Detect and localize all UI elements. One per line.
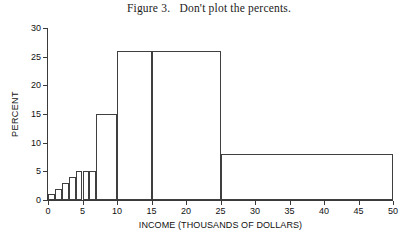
y-tick-label: 30 bbox=[31, 24, 41, 33]
x-tick-label: 15 bbox=[146, 207, 156, 216]
y-tick-mark bbox=[43, 200, 47, 201]
y-axis-title-label: PERCENT bbox=[10, 91, 20, 137]
x-tick-label: 30 bbox=[250, 207, 260, 216]
x-tick-label: 25 bbox=[215, 207, 225, 216]
y-tick-label: 0 bbox=[36, 196, 41, 205]
x-tick-mark bbox=[393, 201, 394, 205]
histogram-bar bbox=[117, 51, 152, 200]
y-axis-title: PERCENT bbox=[8, 28, 22, 200]
y-tick-mark bbox=[43, 143, 47, 144]
x-tick-label: 35 bbox=[284, 207, 294, 216]
x-tick-mark bbox=[117, 201, 118, 205]
x-tick-label: 0 bbox=[45, 207, 50, 216]
figure-title: Figure 3. Don't plot the percents. bbox=[0, 2, 418, 14]
x-tick-label: 10 bbox=[112, 207, 122, 216]
y-tick-mark bbox=[43, 85, 47, 86]
y-axis-line bbox=[47, 28, 48, 200]
x-tick-label: 50 bbox=[388, 207, 398, 216]
y-tick-label: 15 bbox=[31, 110, 41, 119]
histogram-bar bbox=[48, 194, 55, 200]
x-tick-mark bbox=[290, 201, 291, 205]
histogram-bar bbox=[221, 154, 394, 200]
x-tick-label: 45 bbox=[353, 207, 363, 216]
x-tick-mark bbox=[152, 201, 153, 205]
x-tick-mark bbox=[83, 201, 84, 205]
x-tick-mark bbox=[221, 201, 222, 205]
histogram-bar bbox=[69, 177, 76, 200]
x-tick-mark bbox=[186, 201, 187, 205]
y-tick-mark bbox=[43, 57, 47, 58]
x-tick-mark bbox=[324, 201, 325, 205]
histogram-bar bbox=[62, 183, 69, 200]
y-tick-mark bbox=[43, 171, 47, 172]
figure-container: Figure 3. Don't plot the percents. PERCE… bbox=[0, 0, 418, 242]
y-tick-label: 25 bbox=[31, 52, 41, 61]
histogram-bar bbox=[83, 171, 90, 200]
y-tick-label: 5 bbox=[36, 167, 41, 176]
plot-area: 051015202530 05101520253035404550 bbox=[48, 28, 393, 200]
x-tick-label: 40 bbox=[319, 207, 329, 216]
x-tick-label: 5 bbox=[80, 207, 85, 216]
histogram-bar bbox=[76, 171, 83, 200]
x-axis-title: INCOME (THOUSANDS OF DOLLARS) bbox=[48, 220, 393, 230]
x-tick-label: 20 bbox=[181, 207, 191, 216]
x-tick-mark bbox=[255, 201, 256, 205]
y-tick-mark bbox=[43, 114, 47, 115]
y-tick-mark bbox=[43, 28, 47, 29]
x-tick-mark bbox=[359, 201, 360, 205]
x-tick-mark bbox=[48, 201, 49, 205]
histogram-bar bbox=[89, 171, 96, 200]
y-tick-label: 10 bbox=[31, 138, 41, 147]
histogram-bar bbox=[55, 189, 62, 200]
histogram-bar bbox=[96, 114, 117, 200]
y-tick-label: 20 bbox=[31, 81, 41, 90]
histogram-bar bbox=[152, 51, 221, 200]
